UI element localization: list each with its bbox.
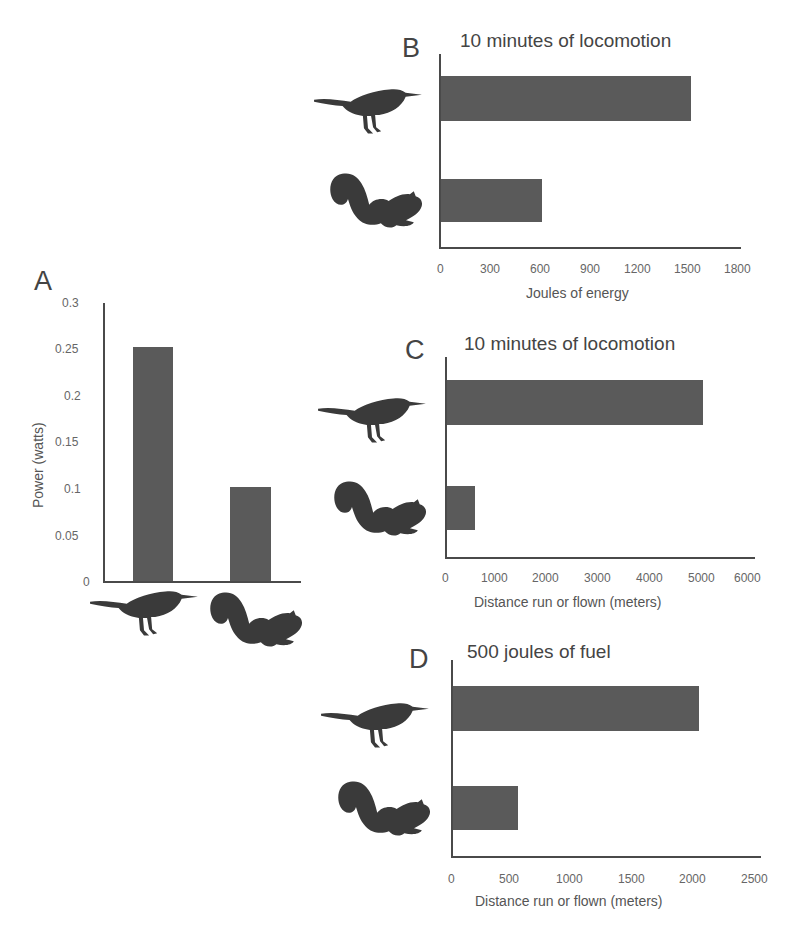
panel-letter-a: A [34, 266, 52, 297]
bar-b-bird [441, 76, 691, 121]
x-tick-c: 1000 [481, 571, 508, 585]
x-axis-a [103, 581, 301, 583]
panel-letter-d: D [409, 644, 429, 675]
x-tick-c: 4000 [636, 571, 663, 585]
chart-title-c: 10 minutes of locomotion [464, 333, 675, 355]
y-tick-a: 0.05 [55, 529, 78, 543]
bird-silhouette-icon [319, 700, 431, 752]
panel-letter-c: C [405, 335, 425, 366]
y-axis-label-a: Power (watts) [30, 422, 46, 508]
x-axis-label-b: Joules of energy [526, 285, 629, 301]
bar-a-bird [133, 347, 173, 581]
x-tick-b: 0 [437, 262, 444, 276]
squirrel-silhouette-icon [332, 478, 430, 538]
x-tick-b: 900 [580, 262, 600, 276]
bird-silhouette-icon [312, 86, 424, 138]
chart-title-d: 500 joules of fuel [467, 641, 611, 663]
bird-silhouette-icon [88, 588, 200, 640]
y-tick-a: 0.25 [55, 342, 78, 356]
chart-title-b: 10 minutes of locomotion [460, 30, 671, 52]
y-tick-a: 0.3 [62, 296, 79, 310]
x-axis-b [439, 247, 741, 249]
bar-b-squirrel [441, 179, 542, 222]
y-tick-a: 0.1 [64, 482, 81, 496]
squirrel-silhouette-icon [208, 589, 306, 649]
y-tick-a: 0.15 [55, 435, 78, 449]
x-tick-c: 6000 [734, 571, 761, 585]
y-tick-a: 0 [83, 575, 90, 589]
bar-d-squirrel [453, 786, 518, 830]
x-tick-d: 1000 [556, 872, 583, 886]
x-tick-c: 0 [442, 571, 449, 585]
panel-letter-b: B [402, 33, 420, 64]
x-tick-b: 1200 [624, 262, 651, 276]
x-tick-d: 2500 [741, 872, 768, 886]
bar-a-squirrel [230, 487, 271, 581]
x-axis-label-c: Distance run or flown (meters) [474, 594, 662, 610]
x-tick-d: 0 [448, 872, 455, 886]
y-tick-a: 0.2 [64, 389, 81, 403]
x-tick-c: 2000 [532, 571, 559, 585]
squirrel-silhouette-icon [336, 778, 434, 838]
x-tick-c: 3000 [584, 571, 611, 585]
x-tick-d: 2000 [679, 872, 706, 886]
squirrel-silhouette-icon [328, 170, 426, 230]
x-tick-c: 5000 [688, 571, 715, 585]
x-tick-b: 600 [530, 262, 550, 276]
x-axis-label-d: Distance run or flown (meters) [475, 893, 663, 909]
x-axis-d [451, 856, 761, 858]
bird-silhouette-icon [316, 395, 428, 447]
x-tick-d: 1500 [618, 872, 645, 886]
bar-c-squirrel [447, 486, 475, 530]
bar-c-bird [447, 380, 703, 425]
x-tick-b: 1500 [674, 262, 701, 276]
x-axis-c [445, 557, 755, 559]
x-tick-b: 1800 [724, 262, 751, 276]
x-tick-b: 300 [480, 262, 500, 276]
y-axis-a [103, 303, 105, 583]
bar-d-bird [453, 686, 699, 731]
x-tick-d: 500 [499, 872, 519, 886]
